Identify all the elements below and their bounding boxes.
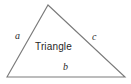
side-label-b: b [63,62,68,72]
side-label-a: a [15,31,20,41]
triangle-figure: a b c Triangle [0,0,131,84]
side-label-c: c [92,32,96,42]
shape-name-label: Triangle [35,41,72,52]
